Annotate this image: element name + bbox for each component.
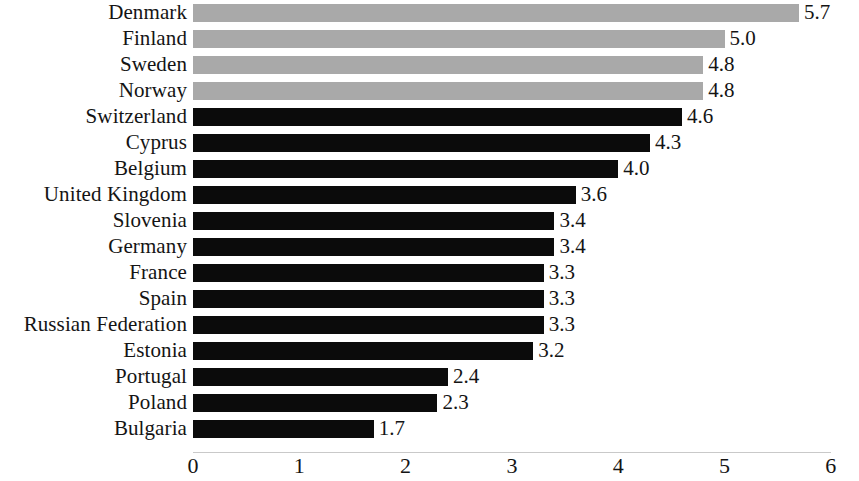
bar — [193, 264, 544, 282]
category-label: Denmark — [108, 0, 193, 26]
bar-row: Sweden4.8 — [0, 52, 859, 78]
bar-value-label: 5.7 — [799, 0, 830, 26]
bar — [193, 238, 554, 256]
x-tick-label: 4 — [598, 453, 638, 479]
bar — [193, 316, 544, 334]
bar-value-label: 4.8 — [703, 78, 734, 104]
bar — [193, 82, 703, 100]
category-label: Belgium — [114, 156, 193, 182]
bar-row: Slovenia3.4 — [0, 208, 859, 234]
bar-value-label: 3.4 — [554, 208, 585, 234]
bar-value-label: 3.3 — [544, 286, 575, 312]
bar-row: Cyprus4.3 — [0, 130, 859, 156]
bar — [193, 186, 576, 204]
category-label: United Kingdom — [44, 182, 193, 208]
bar — [193, 4, 799, 22]
category-label: Slovenia — [113, 208, 193, 234]
bar — [193, 420, 374, 438]
bar — [193, 342, 533, 360]
bar — [193, 290, 544, 308]
bar — [193, 108, 682, 126]
bar — [193, 394, 437, 412]
category-label: Estonia — [123, 338, 193, 364]
category-label: Switzerland — [86, 104, 193, 130]
category-label: Sweden — [120, 52, 193, 78]
bar-row: Germany3.4 — [0, 234, 859, 260]
bar-row: Norway4.8 — [0, 78, 859, 104]
bar-value-label: 4.0 — [618, 156, 649, 182]
x-tick-label: 1 — [279, 453, 319, 479]
category-label: Portugal — [115, 364, 193, 390]
bar-value-label: 1.7 — [374, 416, 405, 442]
bar-value-label: 3.3 — [544, 260, 575, 286]
bar-row: Finland5.0 — [0, 26, 859, 52]
bar-value-label: 3.3 — [544, 312, 575, 338]
category-label: Poland — [128, 390, 193, 416]
bar-row: United Kingdom3.6 — [0, 182, 859, 208]
bar — [193, 368, 448, 386]
category-label: France — [129, 260, 193, 286]
bar — [193, 134, 650, 152]
bar-value-label: 4.6 — [682, 104, 713, 130]
x-tick-label: 5 — [705, 453, 745, 479]
category-label: Russian Federation — [24, 312, 193, 338]
bar-row: Estonia3.2 — [0, 338, 859, 364]
category-label: Norway — [119, 78, 193, 104]
category-label: Cyprus — [126, 130, 193, 156]
bar-row: Switzerland4.6 — [0, 104, 859, 130]
bar — [193, 212, 554, 230]
bar-value-label: 5.0 — [725, 26, 756, 52]
bar-row: Spain3.3 — [0, 286, 859, 312]
bar-value-label: 4.8 — [703, 52, 734, 78]
plot-area: Denmark5.7Finland5.0Sweden4.8Norway4.8Sw… — [0, 0, 859, 452]
x-tick-label: 3 — [492, 453, 532, 479]
bar — [193, 56, 703, 74]
bar-row: Bulgaria1.7 — [0, 416, 859, 442]
bar-value-label: 3.6 — [576, 182, 607, 208]
x-tick-label: 6 — [811, 453, 851, 479]
bar — [193, 30, 725, 48]
category-label: Bulgaria — [114, 416, 193, 442]
bar-value-label: 2.3 — [437, 390, 468, 416]
bar-value-label: 3.2 — [533, 338, 564, 364]
bar-row: France3.3 — [0, 260, 859, 286]
bar-row: Belgium4.0 — [0, 156, 859, 182]
bar-chart: Denmark5.7Finland5.0Sweden4.8Norway4.8Sw… — [0, 0, 859, 481]
bar-value-label: 4.3 — [650, 130, 681, 156]
bar-value-label: 3.4 — [554, 234, 585, 260]
x-axis-tick-labels: 0123456 — [0, 453, 859, 481]
category-label: Finland — [122, 26, 193, 52]
bar-value-label: 2.4 — [448, 364, 479, 390]
bar-row: Poland2.3 — [0, 390, 859, 416]
category-label: Germany — [108, 234, 193, 260]
x-tick-label: 0 — [173, 453, 213, 479]
bar-row: Portugal2.4 — [0, 364, 859, 390]
x-tick-label: 2 — [386, 453, 426, 479]
bar — [193, 160, 618, 178]
bar-row: Denmark5.7 — [0, 0, 859, 26]
bar-row: Russian Federation3.3 — [0, 312, 859, 338]
category-label: Spain — [139, 286, 193, 312]
